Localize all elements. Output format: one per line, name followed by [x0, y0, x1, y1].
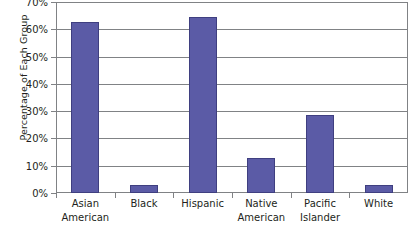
- bar: [189, 17, 217, 193]
- y-tick-label: 50%: [2, 51, 48, 62]
- bar-slot: [349, 2, 408, 193]
- y-tick-label: 0%: [2, 188, 48, 199]
- bar-chart: Percentage of Each Group 0%10%20%30%40%5…: [0, 0, 416, 230]
- x-tick-label: NativeAmerican: [238, 197, 286, 225]
- y-tick-label: 10%: [2, 160, 48, 171]
- x-tick-label: Black: [130, 197, 157, 211]
- x-tick-label: AsianAmerican: [62, 197, 110, 225]
- y-tick-label: 30%: [2, 106, 48, 117]
- y-tick-label: 70%: [2, 0, 48, 8]
- bar: [247, 158, 275, 193]
- bar-slot: [56, 2, 115, 193]
- x-tick-label: PacificIslander: [300, 197, 340, 225]
- bar: [365, 185, 393, 193]
- bar: [130, 185, 158, 193]
- bar-slot: [115, 2, 174, 193]
- x-tick-label: White: [364, 197, 393, 211]
- bar-slot: [232, 2, 291, 193]
- x-axis-labels: AsianAmericanBlackHispanicNativeAmerican…: [56, 197, 408, 230]
- y-tick-label: 20%: [2, 133, 48, 144]
- bar-slot: [291, 2, 350, 193]
- bar: [306, 115, 334, 193]
- x-tick-label: Hispanic: [181, 197, 224, 211]
- y-tick-label: 40%: [2, 78, 48, 89]
- bar: [71, 22, 99, 193]
- bar-slot: [173, 2, 232, 193]
- y-tick-label: 60%: [2, 24, 48, 35]
- bar-series: [56, 2, 408, 193]
